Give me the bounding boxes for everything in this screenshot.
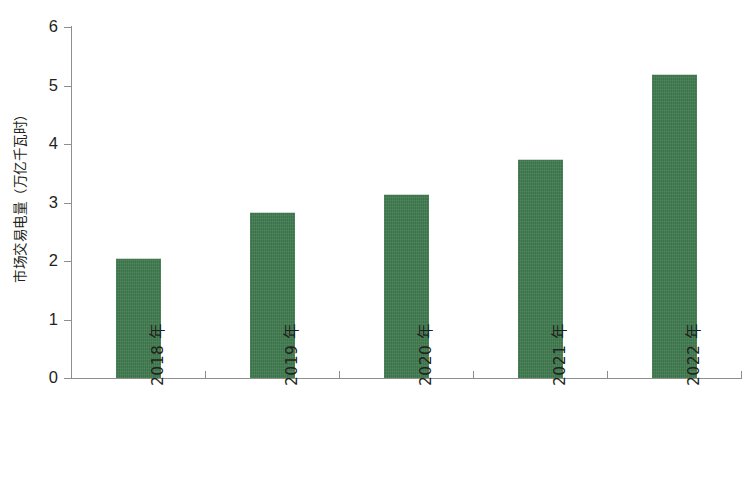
y-axis-title-text: 市场交易电量（万亿千瓦时） <box>9 107 29 283</box>
x-axis-label-text: 2020 年 <box>413 323 435 386</box>
y-axis-tick <box>64 261 72 262</box>
y-axis-tick <box>64 144 72 145</box>
y-axis-tick <box>64 27 72 28</box>
x-axis-label-text: 2019 年 <box>279 323 301 386</box>
y-axis-tick-label: 6 <box>32 18 58 35</box>
bar-chart: 市场交易电量（万亿千瓦时） 0123456 2018 年2019 年2020 年… <box>0 0 751 478</box>
x-axis-label-text: 2018 年 <box>145 323 167 386</box>
y-axis-tick <box>64 203 72 204</box>
y-axis-tick <box>64 320 72 321</box>
y-axis-title: 市场交易电量（万亿千瓦时） <box>4 0 34 390</box>
y-axis-tick-label: 5 <box>32 77 58 94</box>
x-axis-label-text: 2021 年 <box>547 323 569 386</box>
x-axis-tick <box>607 371 608 379</box>
x-axis-label-text: 2022 年 <box>681 323 703 386</box>
x-axis-tick <box>741 371 742 379</box>
y-axis-tick-label: 0 <box>32 369 58 386</box>
y-axis-tick-label: 1 <box>32 311 58 328</box>
x-axis-tick <box>71 371 72 379</box>
x-axis-tick <box>473 371 474 379</box>
y-axis-tick-label: 3 <box>32 194 58 211</box>
y-axis-tick-label: 4 <box>32 135 58 152</box>
x-axis-tick <box>339 371 340 379</box>
x-axis-tick <box>205 371 206 379</box>
y-axis-tick <box>64 86 72 87</box>
y-axis-tick-label: 2 <box>32 252 58 269</box>
x-axis-line <box>71 378 741 379</box>
